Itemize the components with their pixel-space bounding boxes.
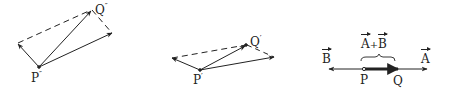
diagram-1-parallelogram (18, 10, 112, 68)
label-p-2-prime: ′ (201, 71, 203, 80)
label-vector-b: B (322, 53, 331, 65)
sum-plus: + (370, 39, 378, 50)
label-q-1-letter: Q (95, 3, 105, 17)
label-p-2: P′ (193, 74, 203, 86)
vector-addition-figure: P″ Q″ P′ Q′ B A A+B P Q (0, 0, 451, 97)
label-p-3-letter: P (360, 73, 368, 87)
label-vector-a: A (421, 53, 430, 65)
label-p-1-prime: ″ (39, 69, 42, 78)
vector-sum-1 (39, 11, 91, 67)
label-q-1-prime: ″ (105, 1, 108, 10)
sum-b-symbol: B (378, 38, 387, 50)
point-q-2 (245, 44, 248, 47)
label-q-1: Q″ (95, 4, 108, 16)
label-p-1: P″ (31, 72, 42, 84)
label-sum: A+B (361, 38, 387, 50)
vector-b-2 (172, 58, 200, 70)
vector-a-2 (200, 57, 274, 70)
diagram-3-collinear (329, 54, 427, 71)
label-q-3: Q (393, 75, 403, 87)
sum-brace (361, 54, 395, 61)
label-p-1-letter: P (31, 71, 39, 85)
label-q-3-letter: Q (393, 74, 403, 88)
vector-b-symbol: B (322, 53, 331, 65)
label-q-2: Q′ (250, 36, 262, 48)
label-p-2-letter: P (193, 73, 201, 87)
vector-b-1 (18, 44, 39, 67)
vector-a-1 (39, 33, 112, 67)
vector-a-symbol: A (421, 53, 430, 65)
point-p-3 (362, 67, 365, 70)
label-q-2-letter: Q (250, 35, 260, 49)
sum-a-symbol: A (361, 38, 370, 50)
point-p-1 (38, 66, 41, 69)
dashed-side-top-1 (18, 10, 91, 43)
label-q-2-prime: ′ (260, 33, 262, 42)
label-p-3: P (360, 74, 368, 86)
